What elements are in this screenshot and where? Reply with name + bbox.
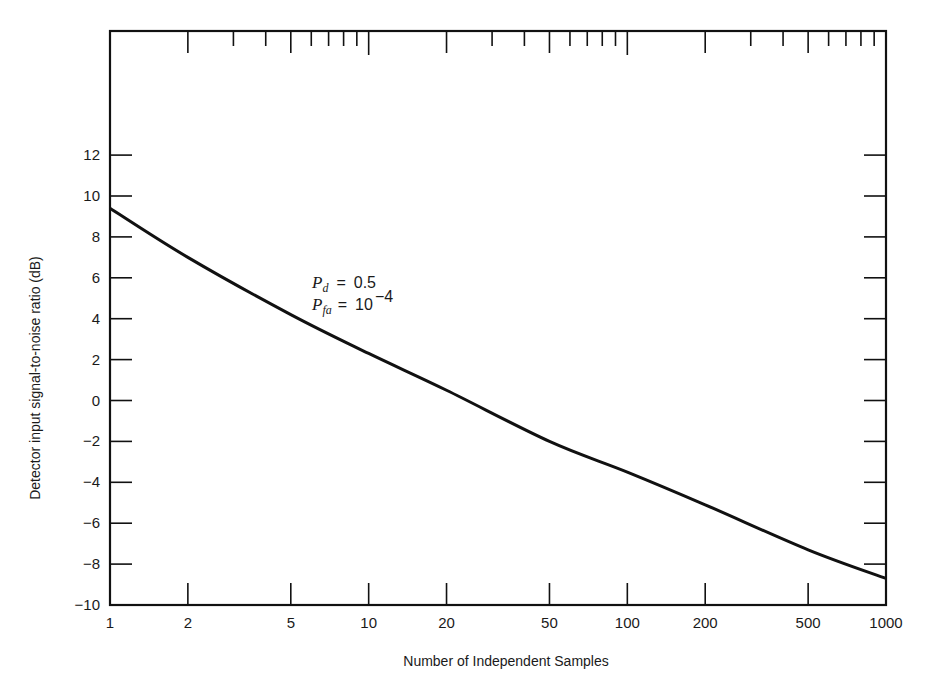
- x-axis-title: Number of Independent Samples: [403, 653, 608, 669]
- x-tick-label: 1000: [869, 614, 902, 631]
- x-tick-label: 500: [796, 614, 821, 631]
- pd-equals: =: [336, 274, 345, 291]
- top-minor-ticks: [188, 31, 874, 55]
- y-tick-label: 10: [83, 187, 100, 204]
- x-tick-label: 200: [693, 614, 718, 631]
- curve-annotation: Pd=0.5 Pfa=10−4: [311, 273, 393, 317]
- right-ticks: [864, 155, 886, 564]
- x-tick-label: 5: [287, 614, 295, 631]
- snr-curve: [110, 208, 886, 578]
- pfa-equals: =: [338, 296, 347, 313]
- y-tick-label: 4: [92, 310, 100, 327]
- y-tick-label: 12: [83, 146, 100, 163]
- pd-value: 0.5: [354, 274, 376, 291]
- pfa-base: 10: [355, 296, 373, 313]
- svg-text:Pd=0.5: Pd=0.5: [311, 273, 376, 295]
- plot-frame: [110, 31, 886, 605]
- y-tick-label: −6: [83, 514, 100, 531]
- y-tick-label: −8: [83, 555, 100, 572]
- y-tick-label: −4: [83, 473, 100, 490]
- x-tick-label: 20: [438, 614, 455, 631]
- x-tick-label: 1: [106, 614, 114, 631]
- pd-symbol: P: [311, 273, 322, 292]
- y-tick-label: 2: [92, 351, 100, 368]
- x-tick-label: 100: [615, 614, 640, 631]
- pfa-subscript: fa: [322, 303, 331, 317]
- chart: −10−8−6−4−2024681012 1251020501002005001…: [0, 0, 936, 692]
- x-tick-label: 2: [184, 614, 192, 631]
- y-tick-label: −10: [75, 596, 100, 613]
- x-tick-labels: 1251020501002005001000: [106, 614, 903, 631]
- y-tick-label: 6: [92, 269, 100, 286]
- x-tick-label: 50: [541, 614, 558, 631]
- bottom-ticks: [188, 583, 808, 605]
- y-tick-label: 0: [92, 392, 100, 409]
- pfa-exponent: −4: [375, 288, 393, 305]
- pd-subscript: d: [322, 281, 329, 295]
- pfa-symbol: P: [311, 295, 322, 314]
- y-tick-label: −2: [83, 432, 100, 449]
- y-axis-title: Detector input signal-to-noise ratio (dB…: [27, 256, 43, 500]
- y-tick-labels: −10−8−6−4−2024681012: [75, 146, 100, 613]
- y-tick-label: 8: [92, 228, 100, 245]
- x-tick-label: 10: [360, 614, 377, 631]
